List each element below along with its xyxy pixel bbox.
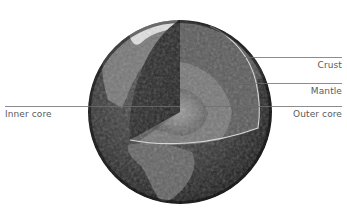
outer-core-label: Outer core [293,109,342,119]
crust-label: Crust [318,60,342,70]
globe [88,19,272,204]
mantle-label: Mantle [311,86,342,96]
earth-cutaway-graphic [0,0,347,214]
earth-layers-diagram: Crust Mantle Outer core Inner core [0,0,347,214]
inner-core-label: Inner core [5,109,52,119]
